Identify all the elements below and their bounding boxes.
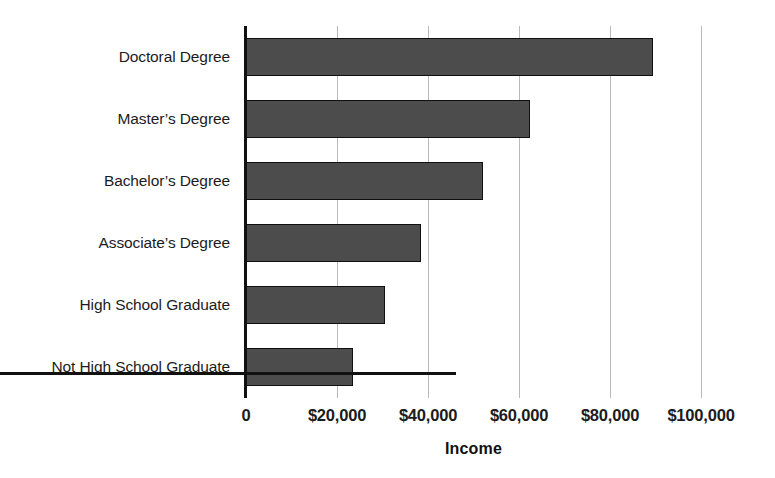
- bar-chart: Doctoral DegreeMaster’s DegreeBachelor’s…: [0, 0, 775, 478]
- category-label: Master’s Degree: [0, 110, 230, 128]
- y-axis-category-labels: Doctoral DegreeMaster’s DegreeBachelor’s…: [0, 26, 238, 398]
- bar: [246, 100, 530, 138]
- gridline: [428, 26, 429, 398]
- x-tick-label: $100,000: [667, 404, 734, 426]
- x-tick-label: $40,000: [399, 404, 457, 426]
- x-axis-tick-labels: 0$20,000$40,000$60,000$80,000$100,000: [0, 404, 775, 432]
- gridline: [701, 26, 702, 398]
- category-label: Bachelor’s Degree: [0, 172, 230, 190]
- bar: [246, 38, 653, 76]
- bar: [246, 286, 385, 324]
- bar: [246, 348, 353, 386]
- gridline: [519, 26, 520, 398]
- x-axis-line: [0, 372, 456, 375]
- category-label: Associate’s Degree: [0, 234, 230, 252]
- x-tick-label: 0: [242, 404, 251, 426]
- category-label: Doctoral Degree: [0, 48, 230, 66]
- category-label: High School Graduate: [0, 296, 230, 314]
- x-tick-label: $20,000: [308, 404, 366, 426]
- bar: [246, 162, 483, 200]
- x-tick-label: $60,000: [490, 404, 548, 426]
- gridline: [337, 26, 338, 398]
- y-axis-line: [244, 26, 247, 398]
- bar: [246, 224, 421, 262]
- gridline: [610, 26, 611, 398]
- x-tick-label: $80,000: [581, 404, 639, 426]
- x-axis-title: Income: [246, 440, 701, 458]
- plot-area: [246, 26, 701, 398]
